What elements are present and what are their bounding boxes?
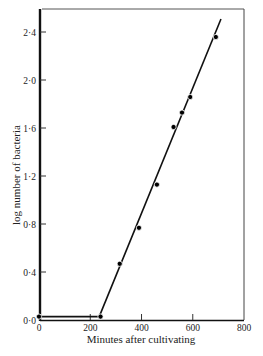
data-point [188,94,193,99]
line-chart: 0·00·40·81·21·62·02·4 0200400600800 Minu… [0,0,263,356]
y-axis-ticks: 0·00·40·81·21·62·02·4 [23,28,46,326]
y-tick-label: 1·2 [23,172,36,182]
x-tick-label: 800 [237,323,252,333]
data-point [213,34,218,39]
x-tick-label: 0 [37,323,42,333]
trend-lines [39,19,221,317]
y-tick-label: 0·4 [23,268,36,278]
x-axis-title: Minutes after cultivating [87,333,196,345]
y-tick-label: 0·0 [23,316,36,326]
data-point [136,225,141,230]
y-tick-label: 2·4 [23,28,36,38]
x-tick-label: 600 [186,323,201,333]
data-point [98,314,103,319]
data-point [179,110,184,115]
data-point [36,314,41,319]
data-points [36,34,218,319]
y-tick-label: 1·6 [23,124,36,134]
y-tick-label: 0·8 [23,220,36,230]
data-point [117,261,122,266]
x-tick-label: 400 [134,323,149,333]
y-tick-label: 2·0 [23,76,36,86]
data-point [154,182,159,187]
data-point [171,124,176,129]
plot-frame [40,9,244,321]
y-axis-title: log number of bacteria [10,125,22,225]
x-tick-label: 200 [83,323,98,333]
